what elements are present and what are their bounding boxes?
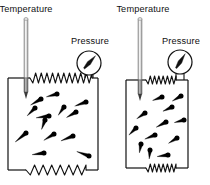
particle-dot [164,120,169,125]
thermometer-mercury-column [24,78,28,92]
particle-dot [43,118,48,123]
particle-dot [139,142,144,147]
particle-dot [52,132,57,137]
particle-dot [87,154,92,159]
particle-dot [148,148,153,153]
diagram-background [0,0,210,185]
particle-dot [166,153,171,158]
physics-diagram-svg: TemperaturePressure TemperaturePressure [0,0,210,185]
gas-diagram-canvas: TemperaturePressure TemperaturePressure [0,0,210,185]
pressure-label: Pressure [71,36,109,46]
particle-dot [84,100,89,105]
thermometer-top-cap [24,18,28,21]
thermometer-stem [138,18,142,80]
particle-dot [153,133,158,138]
particle-dot [47,114,52,119]
particle-dot [179,94,184,99]
particle-dot [74,110,79,115]
particle-dot [182,118,187,123]
particle-dot [42,151,47,156]
thermometer-stem [24,18,28,78]
thermometer-mercury-column [138,80,142,94]
thermometer [24,18,28,99]
particle-dot [170,105,175,110]
particle-dot [62,105,67,110]
particle-dot [143,111,148,116]
particle-dot [134,126,139,131]
particle-dot [160,95,165,100]
temperature-label: Temperature [116,4,169,14]
temperature-label: Temperature [0,4,53,14]
particle-dot [71,134,76,139]
particle-dot [55,92,60,97]
particle-dot [39,97,44,102]
particle-dot [33,106,38,111]
pressure-label: Pressure [162,36,200,46]
thermometer-top-cap [138,18,142,21]
thermometer [138,18,142,101]
particle-dot [24,131,29,136]
particle-dot [175,136,180,141]
